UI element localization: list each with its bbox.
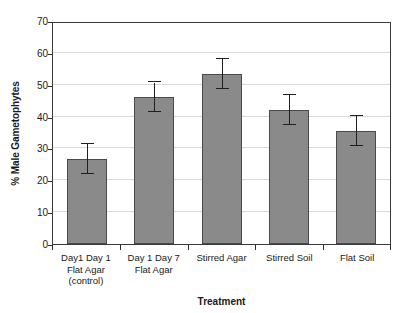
bar (134, 97, 174, 244)
y-tick-label: 20 (26, 176, 48, 186)
bar (202, 74, 242, 244)
error-bar-line (154, 83, 155, 113)
error-bar-cap-lower (283, 124, 296, 125)
y-tick-label: 70 (26, 17, 48, 27)
x-tick-mark (390, 245, 391, 250)
error-bar-line (289, 95, 290, 125)
x-tick-label: Stirred Soil (255, 252, 323, 287)
x-tick-label: Flat Soil (323, 252, 391, 287)
y-tick-label: 40 (26, 113, 48, 123)
x-tick-label: Stirred Agar (188, 252, 256, 287)
y-tick-label: 50 (26, 81, 48, 91)
y-tick-label: 10 (26, 208, 48, 218)
x-tick-label-line: (control) (52, 275, 120, 287)
x-tick-label-line: Stirred Agar (188, 252, 256, 264)
error-bar-cap-upper (81, 143, 94, 144)
x-tick-mark (188, 245, 189, 250)
x-tick-mark (255, 245, 256, 250)
error-bar-cap-upper (148, 81, 161, 82)
bar-slot (53, 23, 120, 244)
x-axis-tick-labels: Day1 Day 1Flat Agar(control)Day 1 Day 7F… (52, 252, 391, 287)
x-tick-label: Day 1 Day 7Flat Agar (120, 252, 188, 287)
plot-area (52, 22, 391, 245)
x-tick-label-line: Stirred Soil (255, 252, 323, 264)
error-bar-line (356, 116, 357, 146)
bars-layer (53, 23, 390, 244)
error-bar-cap-upper (350, 115, 363, 116)
x-tick-label-line: Day 1 Day 7 (120, 252, 188, 264)
x-tick-label-line: Flat Agar (52, 264, 120, 276)
x-tick-mark (120, 245, 121, 250)
y-tick-label: 0 (26, 240, 48, 250)
error-bar-cap-upper (283, 94, 296, 95)
bar-chart-figure: % Male Gametophytes 010203040506070 Day1… (0, 0, 410, 313)
error-bar-cap-lower (216, 88, 229, 89)
bar-slot (120, 23, 187, 244)
bar-slot (255, 23, 322, 244)
x-tick-label-line: Day1 Day 1 (52, 252, 120, 264)
x-tick-mark (323, 245, 324, 250)
x-tick-label-line: Flat Agar (120, 264, 188, 276)
bar-slot (323, 23, 390, 244)
error-bar-cap-lower (81, 173, 94, 174)
bar-slot (188, 23, 255, 244)
y-axis-ticks: 010203040506070 (22, 22, 48, 245)
x-tick-label-line: Flat Soil (323, 252, 391, 264)
x-tick-mark (52, 245, 53, 250)
error-bar-line (222, 59, 223, 89)
y-tick-label: 30 (26, 144, 48, 154)
x-tick-label: Day1 Day 1Flat Agar(control) (52, 252, 120, 287)
error-bar-cap-lower (350, 145, 363, 146)
error-bar-line (87, 144, 88, 174)
x-axis-title: Treatment (52, 296, 391, 307)
error-bar-cap-lower (148, 111, 161, 112)
bar (336, 131, 376, 244)
bar (269, 110, 309, 244)
error-bar-cap-upper (216, 58, 229, 59)
x-axis-ticks (52, 245, 391, 250)
y-tick-label: 60 (26, 49, 48, 59)
